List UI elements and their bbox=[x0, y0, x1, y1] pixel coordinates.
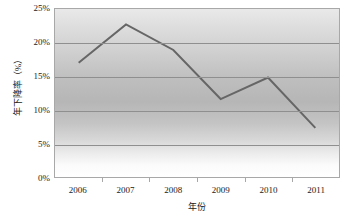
y-tick-label: 5% bbox=[16, 140, 50, 149]
x-tick-mark bbox=[245, 178, 246, 182]
y-axis-tick-labels: 0%5%10%15%20%25% bbox=[16, 6, 50, 178]
y-tick-label: 0% bbox=[16, 174, 50, 183]
x-axis-title: 年份 bbox=[54, 200, 340, 213]
x-axis-tick-marks bbox=[54, 178, 340, 182]
gridline bbox=[55, 43, 339, 44]
x-tick-label: 2009 bbox=[198, 184, 244, 196]
gridline bbox=[55, 111, 339, 112]
x-tick-label: 2007 bbox=[103, 184, 149, 196]
x-tick-mark bbox=[197, 178, 198, 182]
y-tick-label: 20% bbox=[16, 38, 50, 47]
y-tick-label: 10% bbox=[16, 106, 50, 115]
gridline bbox=[55, 145, 339, 146]
x-tick-mark bbox=[102, 178, 103, 182]
plot-area bbox=[54, 8, 340, 178]
y-tick-label: 25% bbox=[16, 4, 50, 13]
gridline bbox=[55, 77, 339, 78]
x-tick-mark bbox=[292, 178, 293, 182]
x-tick-label: 2006 bbox=[55, 184, 101, 196]
x-axis-tick-labels: 200620072008200920102011 bbox=[54, 184, 340, 198]
series-line-group bbox=[55, 9, 339, 177]
x-tick-label: 2008 bbox=[150, 184, 196, 196]
x-tick-label: 2011 bbox=[293, 184, 339, 196]
x-tick-mark bbox=[149, 178, 150, 182]
y-tick-label: 15% bbox=[16, 72, 50, 81]
x-tick-label: 2010 bbox=[246, 184, 292, 196]
line-chart: 年下降率（%） 0%5%10%15%20%25% 200620072008200… bbox=[0, 0, 347, 220]
